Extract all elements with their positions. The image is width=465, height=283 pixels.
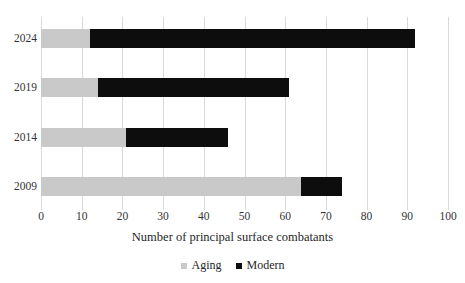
y-axis-tick-label-2014: 2014 [0, 128, 37, 147]
y-axis-tick-labels: 2024201920142009 [0, 17, 41, 205]
legend-item-modern[interactable]: Modern [236, 258, 285, 273]
bar-chart: 2024201920142009 0102030405060708090100 … [0, 0, 465, 283]
x-axis-title: Number of principal surface combatants [0, 230, 465, 245]
legend-item-aging[interactable]: Aging [181, 258, 222, 273]
legend-label: Modern [247, 258, 285, 273]
bar-row [41, 78, 448, 97]
x-axis-tick-label-30: 30 [157, 208, 169, 224]
x-axis-tick-label-10: 10 [76, 208, 88, 224]
bar-row [41, 29, 448, 48]
x-axis-tick-label-50: 50 [239, 208, 251, 224]
x-axis-tick-label-70: 70 [320, 208, 332, 224]
legend-swatch-aging-icon [181, 263, 187, 269]
x-axis-tick-label-20: 20 [117, 208, 129, 224]
x-axis-tick-labels: 0102030405060708090100 [0, 208, 465, 224]
bar-segment-aging [41, 177, 301, 196]
bar-segment-aging [41, 78, 98, 97]
x-axis-tick-label-80: 80 [361, 208, 373, 224]
x-axis-tick-label-40: 40 [198, 208, 210, 224]
bar-row [41, 128, 448, 147]
y-axis-tick-label-2009: 2009 [0, 177, 37, 196]
y-axis-tick-label-2019: 2019 [0, 78, 37, 97]
x-axis-tick-label-90: 90 [402, 208, 414, 224]
bar-segment-modern [126, 128, 228, 147]
y-axis-tick-label-2024: 2024 [0, 29, 37, 48]
gridline [448, 17, 449, 210]
legend-label: Aging [192, 258, 222, 273]
legend-swatch-modern-icon [236, 263, 242, 269]
bar-row [41, 177, 448, 196]
x-axis-tick-label-0: 0 [38, 208, 44, 224]
bar-segment-modern [301, 177, 342, 196]
x-axis-tick-label-60: 60 [279, 208, 291, 224]
bar-segment-modern [90, 29, 416, 48]
bar-segment-aging [41, 128, 126, 147]
plot-area [41, 17, 448, 205]
bar-segment-aging [41, 29, 90, 48]
bar-segment-modern [98, 78, 289, 97]
x-axis-tick-label-100: 100 [439, 208, 456, 224]
chart-legend: AgingModern [0, 258, 465, 273]
